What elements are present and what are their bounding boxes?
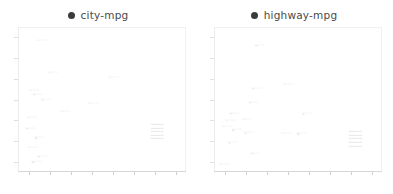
y-tick	[14, 37, 18, 38]
data-point-cluster: ————————————————————	[150, 123, 163, 141]
data-point-label: ———	[301, 113, 312, 117]
data-point-label: ———	[60, 110, 71, 114]
y-tick	[210, 58, 214, 59]
data-point-label: ———	[250, 152, 261, 156]
cluster-line: ————	[150, 138, 163, 142]
data-point-label: ———	[87, 102, 98, 106]
y-tick	[14, 120, 18, 121]
y-tick	[210, 120, 214, 121]
legend-highway-mpg: highway-mpg	[196, 6, 392, 24]
data-point-label: ———	[231, 128, 242, 132]
x-tick	[71, 172, 72, 175]
x-tick	[372, 172, 373, 175]
x-tick	[113, 172, 114, 175]
data-point-label: ———	[26, 116, 37, 120]
legend-city-mpg: city-mpg	[0, 6, 196, 24]
x-tick	[176, 172, 177, 175]
data-point-label: ———	[224, 119, 235, 123]
y-tick	[210, 79, 214, 80]
data-point-cluster: ————————————————————	[349, 130, 362, 148]
legend-label-city-mpg: city-mpg	[81, 10, 129, 21]
x-tick	[155, 172, 156, 175]
data-point-label: ———	[25, 127, 36, 131]
cluster-line: ————	[349, 145, 362, 149]
y-tick	[210, 100, 214, 101]
data-point-label: ———	[34, 137, 45, 141]
chart-panel-city-mpg: city-mpg ———————————————————————————————…	[0, 0, 196, 194]
data-point-label: ———	[36, 39, 47, 43]
legend-label-highway-mpg: highway-mpg	[264, 10, 338, 21]
data-point-label: ———	[107, 76, 118, 80]
x-tick	[288, 172, 289, 175]
dot-icon	[251, 12, 258, 19]
y-tick	[210, 37, 214, 38]
data-point-label: ———	[241, 118, 252, 122]
x-axis-line-city-mpg	[18, 171, 186, 172]
y-tick	[210, 162, 214, 163]
y-axis-spine-highway-mpg	[214, 27, 215, 172]
data-point-label: ———	[229, 112, 240, 116]
data-point-label: ———	[251, 87, 262, 91]
y-axis-spine-city-mpg	[18, 27, 19, 172]
data-point-label: ———	[31, 161, 42, 165]
chart-panel-highway-mpg: highway-mpg ————————————————————————————…	[196, 0, 392, 194]
y-tick	[14, 100, 18, 101]
y-tick	[14, 141, 18, 142]
x-tick	[267, 172, 268, 175]
x-axis-line-highway-mpg	[214, 171, 382, 172]
data-point-label: ———	[254, 44, 265, 48]
y-tick	[14, 58, 18, 59]
x-tick	[246, 172, 247, 175]
x-tick	[309, 172, 310, 175]
scatter-plot-figure: city-mpg ———————————————————————————————…	[0, 0, 393, 194]
data-point-label: ———	[32, 93, 43, 97]
x-tick	[92, 172, 93, 175]
dot-icon	[68, 12, 75, 19]
x-tick	[134, 172, 135, 175]
data-point-label: ———	[27, 146, 38, 150]
x-tick	[225, 172, 226, 175]
y-tick	[14, 162, 18, 163]
x-tick	[50, 172, 51, 175]
data-point-label: ———	[243, 132, 254, 136]
data-point-label: ———	[280, 132, 291, 136]
data-point-label: ———	[37, 155, 48, 159]
x-tick	[330, 172, 331, 175]
x-tick	[351, 172, 352, 175]
y-tick	[14, 79, 18, 80]
data-point-label: ———	[283, 83, 294, 87]
x-tick	[29, 172, 30, 175]
plot-area-highway-mpg	[214, 27, 382, 172]
data-point-label: ———	[40, 99, 51, 103]
data-point-label: ———	[248, 101, 259, 105]
y-tick	[210, 141, 214, 142]
data-point-label: ———	[219, 163, 230, 167]
data-point-label: ———	[47, 71, 58, 75]
data-point-label: ———	[296, 133, 307, 137]
data-point-label: ———	[227, 142, 238, 146]
